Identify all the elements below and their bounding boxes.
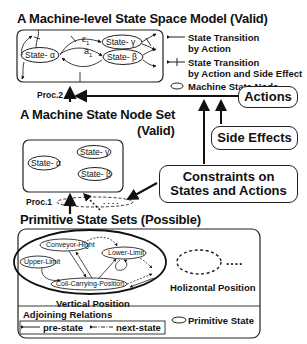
model-state-alpha: State- α <box>25 50 55 60</box>
model-state-beta: State- β <box>107 52 137 62</box>
side-effects-box: Side Effects <box>211 126 298 150</box>
proc2-label: Proc.2 <box>37 90 63 100</box>
primitive-state-legend: Primitive State <box>188 315 254 326</box>
node-set-state-alpha: State- α <box>31 158 61 168</box>
edge-label-a: a1 <box>84 46 92 58</box>
vertical-position-label: Vertical Position <box>56 298 130 309</box>
pre-state-label: pre-state <box>43 322 83 333</box>
primitive-title: Primitive State Sets (Possible) <box>20 212 201 227</box>
primitive-state-upper: Upper-Limit <box>24 258 60 265</box>
adjoining-relations-title: Adjoining Relations <box>23 309 112 320</box>
primitive-state-coil: Coil-Carrying-Position <box>56 280 124 287</box>
primitive-state-conveyor: Conveyor-Hight <box>46 241 95 248</box>
more-positions-ellipsis: .... <box>226 254 243 268</box>
node-set-title: A Machine State Node Set <box>20 107 175 122</box>
model-state-gamma: State- γ <box>106 37 135 47</box>
node-set-subtitle: (Valid) <box>137 123 175 138</box>
svg-text:. . . .: . . . . <box>103 197 119 206</box>
edge-label-epsilon: ε1 <box>82 34 89 46</box>
model-title: A Machine-level State Space Model (Valid… <box>17 11 268 26</box>
primitive-state-lower: Lower-Limit <box>108 249 144 256</box>
proc1-label: Proc.1 <box>26 197 52 207</box>
node-set-state-gamma: State- γ <box>80 147 109 157</box>
legend-transition-side-effect: State Transitionby Action and Side Effec… <box>188 57 302 79</box>
legend-transition-action: State Transitionby Action <box>188 32 259 54</box>
constraints-box: Constraints onStates and Actions <box>159 165 298 203</box>
next-state-label: next-state <box>116 322 161 333</box>
horizontal-position-label: Holizontal Position <box>170 282 256 293</box>
node-set-state-beta: State- β <box>81 169 111 179</box>
actions-box: Actions <box>238 86 298 108</box>
